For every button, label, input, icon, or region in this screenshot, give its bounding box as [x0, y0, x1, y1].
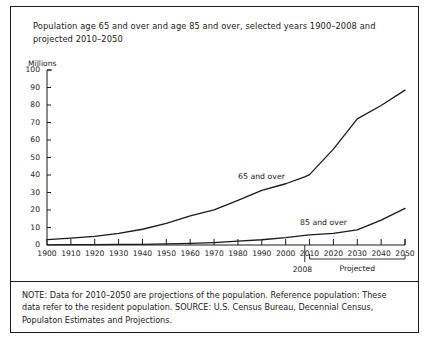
x-tick-label: 2030	[347, 249, 367, 258]
chart-note: NOTE: Data for 2010–2050 are projections…	[22, 289, 407, 326]
x-tick-label: 1960	[180, 249, 200, 258]
x-tick-label: 1910	[61, 249, 81, 258]
x-tick-label: 1930	[109, 249, 129, 258]
y-tick-label: 20	[18, 205, 40, 214]
x-tick-label: 1920	[85, 249, 105, 258]
x-tick-label: 1940	[132, 249, 152, 258]
x-tick-label: 2010	[300, 249, 320, 258]
y-tick-label: 70	[18, 118, 40, 127]
series-label-65-and-over: 65 and over	[238, 172, 285, 181]
data-series	[47, 90, 405, 245]
x-tick-label: 2050	[395, 249, 415, 258]
x-tick-label: 1900	[37, 249, 57, 258]
y-tick-label: 40	[18, 170, 40, 179]
tick-marks	[47, 70, 405, 245]
y-tick-label: 90	[18, 83, 40, 92]
y-tick-label: 50	[18, 153, 40, 162]
x-tick-label: 2000	[276, 249, 296, 258]
y-tick-label: 30	[18, 188, 40, 197]
projected-label: Projected	[335, 264, 379, 273]
y-axis-title: Millions	[28, 59, 56, 68]
x-tick-label: 1950	[156, 249, 176, 258]
x-tick-label: 2020	[323, 249, 343, 258]
y-tick-label: 60	[18, 135, 40, 144]
x-tick-label: 1970	[204, 249, 224, 258]
axes	[47, 70, 405, 245]
y-tick-label: 0	[18, 240, 40, 249]
note-divider	[11, 281, 418, 282]
x-tick-label: 1980	[228, 249, 248, 258]
y-tick-label: 80	[18, 100, 40, 109]
series-label-85-and-over: 85 and over	[300, 218, 347, 227]
marker-year-label: 2008	[293, 265, 312, 274]
x-tick-label: 2040	[371, 249, 391, 258]
y-tick-label: 10	[18, 223, 40, 232]
x-tick-label: 1990	[252, 249, 272, 258]
